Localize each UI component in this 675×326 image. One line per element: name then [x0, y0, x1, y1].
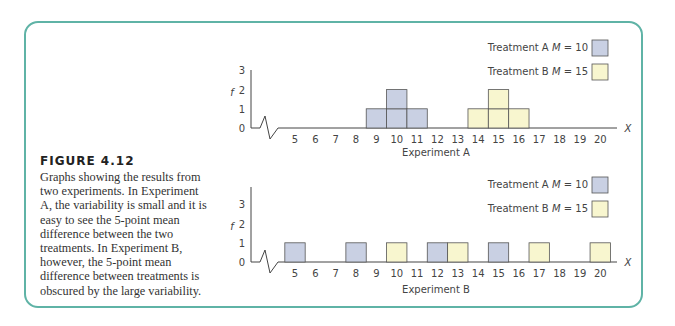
y-tick-label: 2 [239, 85, 245, 96]
x-tick-label: 13 [451, 268, 464, 279]
legend-swatch [592, 201, 608, 217]
y-tick-label: 0 [239, 257, 245, 268]
x-tick-label: 10 [390, 134, 403, 145]
histogram-bar [366, 109, 386, 128]
x-tick-label: 19 [574, 134, 587, 145]
x-tick-label: 5 [292, 268, 298, 279]
y-tick-label: 1 [239, 238, 245, 249]
histogram-bar [407, 109, 427, 128]
chart-experiment-b: X0123f567891011121314151617181920Experim… [230, 177, 632, 295]
chart-experiment-a: X0123f567891011121314151617181920Experim… [230, 40, 632, 158]
x-axis-label: X [624, 123, 633, 134]
x-tick-label: 9 [373, 268, 379, 279]
x-tick-label: 17 [533, 134, 546, 145]
histogram-bar [590, 243, 610, 262]
histogram-bar [387, 90, 407, 109]
histogram-bar [387, 109, 407, 128]
x-tick-label: 19 [574, 268, 587, 279]
x-tick-label: 9 [373, 134, 379, 145]
x-tick-label: 7 [333, 268, 339, 279]
histogram-bar [285, 243, 305, 262]
y-axis-label: f [230, 221, 235, 232]
legend-swatch [592, 177, 608, 193]
y-tick-label: 3 [239, 199, 245, 210]
histogram-bar [529, 243, 549, 262]
x-tick-label: 12 [431, 134, 444, 145]
legend-label: Treatment A M = 10 [487, 179, 588, 190]
y-tick-label: 1 [239, 104, 245, 115]
charts-canvas: X0123f567891011121314151617181920Experim… [0, 0, 675, 326]
x-tick-label: 16 [512, 134, 525, 145]
y-tick-label: 2 [239, 219, 245, 230]
chart-title: Experiment B [402, 284, 470, 295]
chart-title: Experiment A [402, 147, 470, 158]
x-tick-label: 7 [333, 134, 339, 145]
x-tick-label: 8 [353, 268, 359, 279]
x-tick-label: 18 [553, 134, 566, 145]
x-tick-label: 15 [492, 268, 505, 279]
x-tick-label: 16 [512, 268, 525, 279]
x-axis-label: X [624, 257, 633, 268]
y-tick-label: 0 [239, 123, 245, 134]
x-tick-label: 18 [553, 268, 566, 279]
x-tick-label: 6 [312, 134, 318, 145]
x-tick-label: 14 [472, 268, 485, 279]
histogram-bar [488, 243, 508, 262]
legend-label: Treatment B M = 15 [487, 203, 588, 214]
histogram-bar [488, 109, 508, 128]
x-tick-label: 8 [353, 134, 359, 145]
x-tick-label: 11 [411, 268, 424, 279]
x-tick-label: 10 [390, 268, 403, 279]
legend-swatch [592, 40, 608, 56]
x-tick-label: 5 [292, 134, 298, 145]
histogram-bar [427, 243, 447, 262]
x-tick-label: 14 [472, 134, 485, 145]
legend-swatch [592, 64, 608, 80]
x-tick-label: 20 [594, 268, 607, 279]
x-tick-label: 6 [312, 268, 318, 279]
x-tick-label: 13 [451, 134, 464, 145]
y-axis-label: f [230, 87, 235, 98]
histogram-bar [346, 243, 366, 262]
histogram-bar [509, 109, 529, 128]
y-tick-label: 3 [239, 65, 245, 76]
histogram-bar [448, 243, 468, 262]
x-tick-label: 20 [594, 134, 607, 145]
histogram-bar [468, 109, 488, 128]
x-tick-label: 17 [533, 268, 546, 279]
histogram-bar [387, 243, 407, 262]
legend-label: Treatment A M = 10 [487, 42, 588, 53]
legend-label: Treatment B M = 15 [487, 66, 588, 77]
x-tick-label: 15 [492, 134, 505, 145]
x-tick-label: 12 [431, 268, 444, 279]
x-tick-label: 11 [411, 134, 424, 145]
histogram-bar [488, 90, 508, 109]
